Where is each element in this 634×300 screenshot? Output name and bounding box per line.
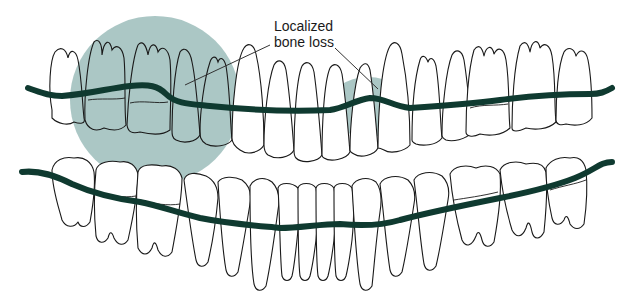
annotation-label-line2: bone loss [274,34,334,50]
annotation-label-line1: Localized [274,18,334,34]
annotation-label: Localized bone loss [274,18,334,50]
